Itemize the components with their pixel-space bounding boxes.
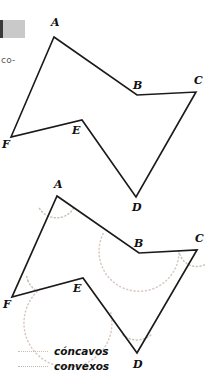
geometry-figures: A B C D E F <box>0 0 210 376</box>
vertex-label-b-1: B <box>132 79 142 92</box>
vertex-label-a-1: A <box>50 16 60 29</box>
vertex-label-c-2: C <box>195 232 204 245</box>
angle-arc-f <box>28 281 35 290</box>
vertex-label-d-1: D <box>131 201 142 214</box>
vertex-label-f-1: F <box>1 138 11 151</box>
polygon-annotated: A B C D E F <box>2 178 206 371</box>
vertex-label-f-2: F <box>2 298 12 311</box>
figure-page: co- A B C D E F <box>0 0 210 376</box>
angle-arc-a <box>40 207 75 218</box>
polygon-plain-outline <box>11 37 196 197</box>
legend-swatch-concavos <box>18 351 48 352</box>
angle-arc-f2 <box>27 274 29 281</box>
vertex-label-e-1: E <box>71 124 81 137</box>
legend-item-concavos: cóncavos <box>18 345 109 357</box>
legend-label-convexos: convexos <box>54 360 109 372</box>
legend-item-convexos: convexos <box>18 360 109 372</box>
legend-swatch-convexos <box>18 366 48 367</box>
polygon-annotated-outline <box>12 196 197 353</box>
legend-label-concavos: cóncavos <box>54 345 109 357</box>
vertex-label-a-2: A <box>53 178 63 191</box>
vertex-label-b-2: B <box>133 237 143 250</box>
polygon-plain: A B C D E F <box>1 16 203 214</box>
vertex-label-d-2: D <box>132 358 143 371</box>
vertex-label-e-2: E <box>72 282 82 295</box>
vertex-label-c-1: C <box>194 74 203 87</box>
